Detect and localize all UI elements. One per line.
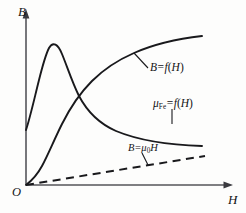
annotation-b-of-h-arg: H	[172, 61, 180, 73]
annotation-b-mu0-h-mu: μ	[141, 142, 146, 153]
annotation-b-mu0-h-subscript: 0	[147, 147, 151, 155]
annotation-mu-fe-subscript: Fe	[159, 103, 166, 111]
annotation-mu-fe-of-h: μFe=f(H)	[153, 98, 193, 110]
origin-label: O	[12, 186, 21, 199]
annotation-mu-fe-close-paren: )	[189, 97, 193, 109]
x-axis-label: H	[228, 193, 237, 206]
curve-mu-fe-of-h	[26, 44, 202, 146]
annotation-mu-fe-mu: μ	[153, 97, 159, 109]
annotation-b-of-h-close-paren: )	[180, 61, 184, 73]
annotation-b-of-h-equals: =	[157, 61, 165, 73]
curve-b-of-h	[26, 36, 202, 185]
x-axis-arrowhead	[224, 182, 234, 189]
annotation-mu-fe-equals: =	[166, 97, 174, 109]
y-axis-label: B	[18, 5, 26, 18]
annotation-b-of-h: B=f(H)	[150, 62, 184, 74]
leader-line-b-of-h	[134, 53, 148, 68]
line-b-equals-mu0-h	[26, 156, 205, 185]
magnetisation-curve-figure: B H O B=f(H) μFe=f(H) B=μ0H	[0, 0, 246, 213]
annotation-b-mu0-h: B=μ0H	[128, 143, 158, 154]
annotation-b-mu0-h-arg: H	[150, 142, 158, 153]
annotation-b-of-h-lhs: B	[150, 61, 157, 73]
annotation-mu-fe-arg: H	[181, 97, 189, 109]
figure-canvas	[0, 0, 246, 213]
